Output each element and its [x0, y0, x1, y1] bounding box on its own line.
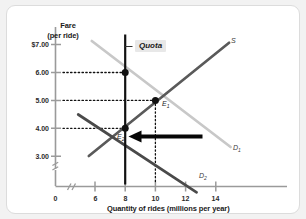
- demand-shift-arrow-head: [129, 131, 142, 143]
- point-e1-label-sub: 1: [167, 103, 170, 109]
- axes: [52, 27, 287, 190]
- demand-curve-d2-label: D2: [199, 172, 207, 181]
- x-tick-label-8: 8: [115, 195, 136, 202]
- demand-curve-d1-label: D1: [233, 144, 241, 153]
- x-tick-label-14: 14: [205, 195, 226, 202]
- quota-annotation-label: Quota: [135, 40, 166, 52]
- point-e2: [122, 125, 129, 132]
- x-tick-label-6: 6: [85, 195, 106, 202]
- guide-lines: [63, 73, 155, 185]
- y-axis-title-line1: Fare: [45, 22, 91, 30]
- x-tick-label-0: 0: [45, 195, 66, 202]
- point-e1-label: E1: [162, 100, 169, 109]
- y-tick-label-3: 3.00: [7, 153, 49, 160]
- supply-curve-label-text: S: [231, 37, 236, 44]
- point-e2-label-sub: 2: [122, 136, 125, 142]
- y-tick-label-6: 6.00: [7, 69, 49, 76]
- chart-panel: Fare (per ride) $7.00 6.00 5.00 4.00 3.0…: [6, 5, 300, 214]
- y-axis-title-line2: (per ride): [35, 32, 91, 40]
- x-tick-label-10: 10: [145, 195, 166, 202]
- chart-figure: Fare (per ride) $7.00 6.00 5.00 4.00 3.0…: [0, 0, 306, 219]
- x-tick-label-12: 12: [175, 195, 196, 202]
- demand-curve-d1-label-sub: 1: [238, 147, 241, 153]
- point-quota-demand-price: [122, 69, 129, 76]
- demand-shift-arrow: [129, 131, 203, 143]
- y-tick-label-4: 4.00: [7, 125, 49, 132]
- demand-curve-d2-label-sub: 2: [204, 175, 207, 181]
- point-e1: [152, 97, 159, 104]
- supply-curve-s: [89, 43, 229, 156]
- demand-curve-d2: [78, 115, 196, 193]
- supply-curve-label: S: [231, 37, 236, 44]
- x-axis-title: Quantity of rides (millions per year): [107, 205, 230, 213]
- y-tick-label-5: 5.00: [7, 97, 49, 104]
- y-tick-label-7: $7.00: [7, 41, 49, 48]
- point-e2-label: E2: [117, 133, 124, 142]
